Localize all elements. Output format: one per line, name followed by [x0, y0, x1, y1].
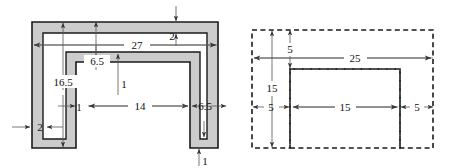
dim-label: 6.5 [198, 100, 212, 112]
dim-label: 1 [202, 155, 208, 167]
dim-label: 6.5 [90, 55, 104, 67]
dim-label: 27 [132, 39, 144, 51]
dim-label: 15 [340, 101, 352, 113]
dim-label: 2 [37, 121, 43, 133]
dim-label: 14 [135, 100, 147, 112]
diagram-canvas: 2 27 6.5 16.5 1 [0, 0, 449, 168]
dim-label: 5 [268, 101, 274, 113]
dim-label: 25 [350, 52, 362, 64]
dim-label: 15 [267, 82, 279, 94]
dim-label: 2 [169, 30, 175, 42]
dim-label: 1 [121, 78, 127, 90]
dim-label: 1 [76, 101, 82, 113]
engineering-dimension-drawing: 2 27 6.5 16.5 1 [0, 0, 449, 168]
dim-label: 5 [414, 101, 420, 113]
dim-label: 5 [287, 43, 293, 55]
dim-label: 16.5 [53, 76, 73, 88]
